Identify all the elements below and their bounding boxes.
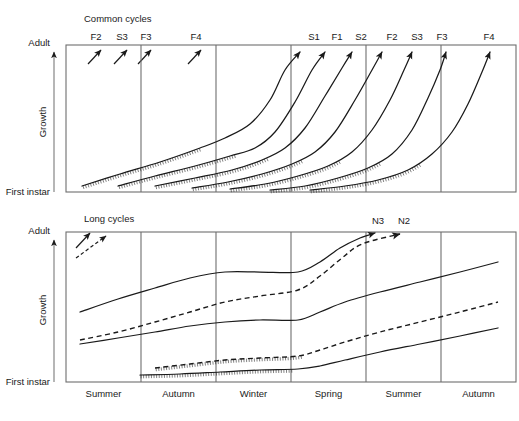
curve-s3-hatch-tick: [275, 182, 276, 185]
curve-s1-hatch-tick: [189, 152, 190, 155]
growth-curve-s3: [230, 52, 412, 192]
curve-s2-hatch-tick: [220, 173, 221, 176]
curve-s2-hatch-tick: [255, 163, 256, 166]
curve-f2-hatch-tick: [282, 168, 283, 171]
curve-f4-hatch-tick: [414, 167, 416, 170]
curve-s1-hatch-tick: [165, 160, 166, 163]
curve-f4-hatch-tick: [412, 168, 414, 171]
curve-s2-hatch-tick: [262, 160, 263, 163]
curve-s1-line: [82, 52, 300, 186]
curve-f2-hatch-tick: [284, 167, 285, 170]
season-label-0: Summer: [86, 388, 122, 399]
curve-f3-hatch-tick: [372, 166, 373, 169]
curve-s1-hatch-tick: [175, 157, 176, 160]
y-axis-bottom-label-bottom: First instar: [6, 376, 50, 387]
curve-f2-hatch-tick: [299, 161, 300, 164]
curve-f3-hatch-tick: [345, 176, 346, 179]
cohort-label-f2-early: F2: [90, 31, 101, 42]
curve-f4-hatch-tick: [363, 183, 364, 186]
curve-s2-hatch-tick: [222, 172, 223, 175]
legend-arrows-bottom: [76, 233, 106, 258]
panel-common-cycles: Common cycles F2 S3 F3 F4 S1 F1 S2 F2 S3…: [66, 13, 516, 193]
curve-f2-hatch-tick: [301, 160, 302, 163]
cohort-label-f3-late: F3: [436, 31, 447, 42]
y-axis-bottom: Adult Growth First instar: [6, 225, 54, 387]
curve-s3-hatch-tick: [322, 168, 323, 171]
curve-s3-hatch-tick: [327, 166, 328, 169]
curve-f4-hatch-tick: [393, 176, 394, 179]
curve-f3-hatch-tick: [367, 168, 368, 171]
curve-s1-hatch-tick: [197, 149, 198, 152]
curve-s2-hatch-tick: [267, 158, 268, 161]
panel-title-long-cycles: Long cycles: [84, 213, 134, 224]
curve-n3-line: [80, 233, 375, 312]
legend-arrows-top: [88, 50, 201, 64]
curve-f3-hatch-tick: [369, 167, 370, 170]
curve-f2-hatch-tick: [287, 166, 288, 169]
curve-f4-hatch-tick: [410, 169, 412, 172]
growth-curve-track-3: [80, 262, 498, 344]
growth-curve-s1: [82, 52, 300, 189]
cohort-label-f1: F1: [331, 31, 342, 42]
cohort-label-f2-late: F2: [386, 31, 397, 42]
curve-s1-hatch-tick: [172, 158, 173, 161]
curve-s3-hatch-tick: [310, 173, 311, 176]
cohort-label-f4-late: F4: [483, 31, 494, 42]
curve-f3-hatch-tick: [357, 172, 358, 175]
curve-f4-hatch-tick: [403, 172, 404, 175]
curve-s3-hatch-tick: [339, 161, 341, 164]
curve-f4-hatch-tick: [360, 184, 361, 187]
curve-f2-hatch-tick: [296, 162, 297, 165]
curve-f4-hatch-tick: [398, 174, 399, 177]
curve-s2-hatch-tick: [250, 165, 251, 168]
curve-s1-hatch-tick: [192, 151, 193, 154]
curve-f2-hatch-tick: [247, 178, 248, 181]
curve-f4-hatch-tick: [373, 181, 374, 184]
curve-f2-hatch-tick: [294, 163, 295, 166]
curve-f3-hatch-tick: [374, 165, 375, 168]
curve-n2-line: [80, 234, 400, 340]
curve-f2-hatch-tick: [291, 164, 292, 167]
curve-s3-hatch-tick: [307, 173, 308, 176]
curve-f3-hatch-tick: [379, 163, 381, 166]
curve-f4-hatch-tick: [405, 171, 406, 174]
curve-s1-hatch-tick: [194, 150, 195, 153]
y-axis-top-label-bottom: Adult: [28, 225, 50, 236]
growth-cycles-figure: Adult Growth First instar Common cycles …: [0, 0, 519, 421]
curve-f3-line: [270, 52, 446, 190]
panel-long-cycles: Long cycles N3 N2: [66, 213, 516, 382]
curve-s1-hatch-tick: [187, 153, 188, 156]
curve-f1-hatch-tick: [172, 172, 173, 175]
season-axis-labels: SummerAutumnWinterSpringSummerAutumn: [86, 388, 495, 399]
curve-f4-hatch-tick: [390, 177, 391, 180]
curve-s2-hatch-tick: [215, 174, 216, 177]
curve-s3-hatch-tick: [334, 163, 336, 166]
curve-s1-hatch-tick: [185, 154, 186, 157]
curve-f2-hatch-tick: [242, 179, 243, 182]
curve-f3-hatch-tick: [350, 175, 351, 178]
growth-curve-track-5: [140, 328, 498, 378]
curve-s3-line: [230, 52, 412, 189]
curve-f3-hatch-tick: [376, 164, 378, 167]
growth-curve-n2: [80, 234, 400, 340]
curve-f4-hatch-tick: [407, 170, 408, 173]
curve-f3-hatch-tick: [347, 175, 348, 178]
season-label-5: Autumn: [462, 388, 495, 399]
curve-s2-hatch-tick: [252, 164, 253, 167]
curve-f3-hatch-tick: [360, 171, 361, 174]
curve-f2-hatch-tick: [277, 170, 278, 173]
curve-s2-hatch-tick: [217, 173, 218, 176]
curve-f4-hatch-tick: [375, 181, 376, 184]
curve-f4-hatch-tick: [388, 177, 389, 180]
curve-s1-hatch-tick: [150, 165, 151, 168]
curve-s2-hatch-tick: [260, 161, 261, 164]
curve-f2-hatch-tick: [289, 165, 290, 168]
cohort-label-f4-early: F4: [190, 31, 201, 42]
curve-s1-hatch-tick: [177, 156, 178, 159]
cohort-label-s3-early: S3: [116, 31, 128, 42]
cohort-label-f3-early: F3: [140, 31, 151, 42]
curve-s1-hatch-tick: [199, 148, 200, 151]
curve-s3-hatch-tick: [317, 170, 318, 173]
curve-s2-line: [155, 52, 352, 186]
curve-f4-hatch-tick: [419, 164, 421, 167]
